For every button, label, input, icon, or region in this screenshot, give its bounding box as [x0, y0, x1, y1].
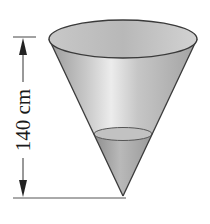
cone-opening — [49, 20, 197, 58]
arrow-up-icon — [19, 38, 27, 55]
arrow-down-icon — [19, 180, 27, 197]
liquid-body — [94, 134, 152, 196]
liquid-surface — [94, 128, 152, 141]
cone-diagram: 140 cm — [0, 0, 210, 224]
height-label: 140 cm — [11, 89, 35, 151]
